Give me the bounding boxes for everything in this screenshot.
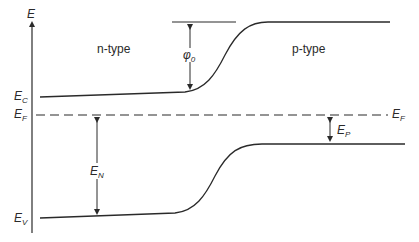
- band-diagram: [0, 0, 419, 242]
- energy-axis-label: E: [27, 8, 35, 20]
- conduction-band-label: EC: [14, 90, 28, 102]
- barrier-label: φ0: [183, 48, 195, 62]
- conduction-band-curve: [40, 22, 390, 97]
- ep-label: EP: [337, 124, 350, 136]
- n-type-label: n-type: [97, 43, 130, 55]
- fermi-level-label-right: EF: [392, 108, 405, 120]
- valence-band-curve: [40, 144, 405, 218]
- fermi-level-label-left: EF: [14, 108, 27, 120]
- valence-band-label: EV: [14, 212, 27, 224]
- en-label: EN: [90, 163, 104, 179]
- p-type-label: p-type: [292, 43, 325, 55]
